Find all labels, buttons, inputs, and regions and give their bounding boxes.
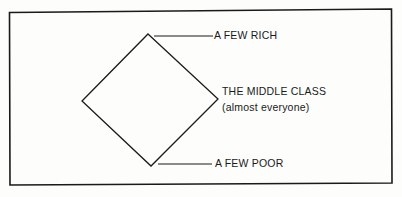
social-class-diamond <box>82 34 218 166</box>
label-middle-class: THE MIDDLE CLASS <box>222 85 326 97</box>
diagram-canvas <box>0 0 402 197</box>
label-almost-everyone: (almost everyone) <box>222 101 309 113</box>
frame-border <box>10 9 393 185</box>
label-few-poor: A FEW POOR <box>215 157 284 169</box>
label-few-rich: A FEW RICH <box>214 29 277 41</box>
